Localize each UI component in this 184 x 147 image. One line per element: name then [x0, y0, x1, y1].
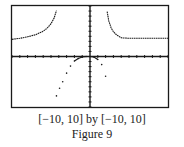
right-branch [107, 12, 168, 39]
middle-branch-point [66, 72, 68, 74]
figure-label: Figure 9 [0, 128, 184, 141]
middle-branch-point [105, 75, 107, 77]
middle-branch-point [70, 65, 72, 67]
middle-branch-point [101, 64, 103, 66]
middle-branch-point [59, 88, 61, 90]
middle-branch-point [56, 95, 58, 97]
left-branch [12, 11, 56, 40]
graphing-calculator-plot [0, 0, 184, 112]
window-settings-caption: [−10, 10] by [−10, 10] [0, 113, 184, 126]
middle-branch-point [62, 81, 64, 83]
